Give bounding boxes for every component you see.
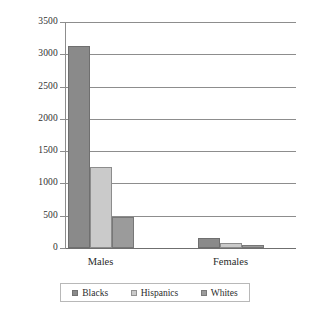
gridline	[66, 119, 296, 120]
y-axis-tick-label: 500	[10, 211, 58, 221]
y-tick-mark	[60, 87, 65, 88]
gridline	[66, 151, 296, 152]
legend-item[interactable]: Hispanics	[131, 288, 178, 298]
y-tick-mark	[60, 119, 65, 120]
legend-item[interactable]: Whites	[201, 288, 238, 298]
y-tick-mark	[60, 151, 65, 152]
legend-label: Hispanics	[141, 288, 178, 298]
y-tick-mark	[60, 22, 65, 23]
y-tick-mark	[60, 216, 65, 217]
bar	[220, 243, 242, 248]
legend-swatch-icon	[72, 290, 78, 296]
bar	[198, 238, 220, 248]
bar-chart: 0500100015002000250030003500 MalesFemale…	[0, 0, 310, 321]
axis-baseline	[66, 248, 296, 249]
y-axis-tick-label: 3000	[10, 49, 58, 59]
x-axis-category-label: Males	[48, 256, 154, 268]
plot-area	[66, 22, 296, 248]
bar	[242, 245, 264, 248]
legend-label: Blacks	[82, 288, 108, 298]
y-axis-tick-label: 0	[10, 243, 58, 253]
y-tick-mark	[60, 54, 65, 55]
y-axis-tick-label: 2500	[10, 82, 58, 92]
bar	[68, 46, 90, 248]
gridline	[66, 87, 296, 88]
gridline	[66, 54, 296, 55]
chart-legend: BlacksHispanicsWhites	[60, 283, 250, 302]
y-axis-tick-label: 1000	[10, 178, 58, 188]
legend-swatch-icon	[201, 290, 207, 296]
x-axis-category-label: Females	[178, 256, 284, 268]
legend-swatch-icon	[131, 290, 137, 296]
y-axis-tick-label: 1500	[10, 146, 58, 156]
gridline	[66, 22, 296, 23]
bar	[90, 167, 112, 248]
y-axis-tick-label: 3500	[10, 17, 58, 27]
y-tick-mark	[60, 248, 65, 249]
bar	[112, 217, 134, 248]
legend-item[interactable]: Blacks	[72, 288, 108, 298]
y-tick-mark	[60, 183, 65, 184]
y-axis-tick-label: 2000	[10, 114, 58, 124]
legend-label: Whites	[211, 288, 238, 298]
